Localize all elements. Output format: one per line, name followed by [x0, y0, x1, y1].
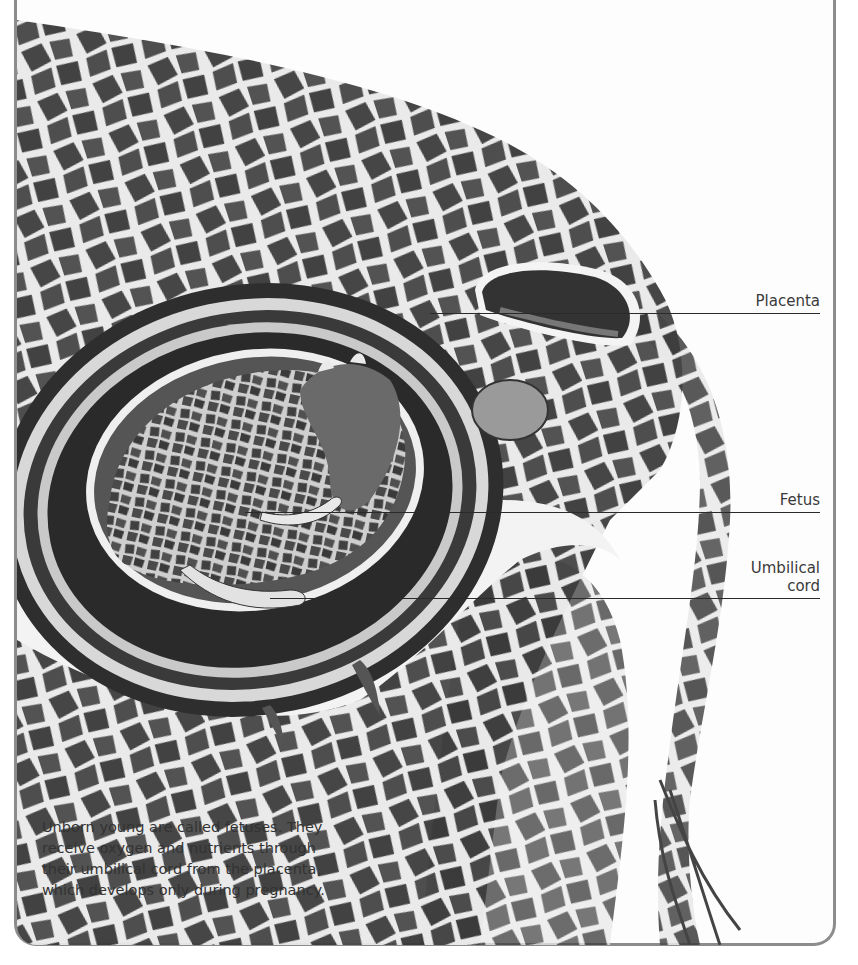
umbilical-cord-leader-line	[270, 598, 820, 599]
fetus-label: Fetus	[780, 491, 820, 509]
placenta-label: Placenta	[756, 292, 820, 310]
umbilical-cord-label-line1: Umbilical	[751, 559, 820, 577]
fetus-leader-line	[245, 512, 820, 513]
umbilical-cord-label: Umbilical cord	[751, 559, 820, 595]
figure-caption: Unborn young are called fetuses. They re…	[42, 817, 342, 901]
placenta-leader-line	[430, 313, 820, 314]
umbilical-cord-label-line2: cord	[751, 577, 820, 595]
